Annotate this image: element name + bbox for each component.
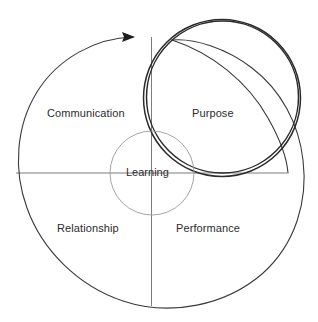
- spiral-arrowhead-icon: [122, 32, 135, 42]
- quadrant-label-relationship: Relationship: [57, 223, 119, 234]
- center-label-learning: Learning: [126, 167, 169, 178]
- diagram-svg: [0, 0, 318, 322]
- quadrant-label-performance: Performance: [176, 223, 240, 234]
- emphasis-circle-inner: [147, 21, 299, 173]
- diagram-canvas: Communication Purpose Relationship Perfo…: [0, 0, 318, 322]
- quadrant-label-communication: Communication: [47, 108, 125, 119]
- quadrant-label-purpose: Purpose: [192, 108, 234, 119]
